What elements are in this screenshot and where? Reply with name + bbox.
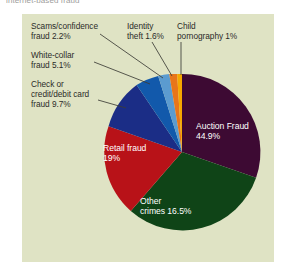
- slice-label-retail-line2: 19%: [103, 153, 146, 163]
- callout-label-identity-theft: Identity theft 1.6%: [127, 21, 164, 41]
- callout-identity-theft-line1: Identity: [127, 21, 164, 31]
- callout-child-pornography-line2: pornography 1%: [177, 31, 237, 41]
- callout-white-collar-line1: White-collar: [31, 50, 74, 60]
- slice-label-other-line2: crimes 16.5%: [140, 206, 191, 216]
- callout-white-collar-line2: fraud 5.1%: [31, 60, 74, 70]
- callout-scams-line1: Scams/confidence: [31, 21, 98, 31]
- slice-label-other-line1: Other: [140, 196, 191, 206]
- slice-label-retail-line1: Retail fraud: [103, 143, 146, 153]
- slice-label-retail-fraud: Retail fraud 19%: [103, 143, 146, 164]
- callout-label-check-credit-debit-card-fraud: Check or credit/debit card fraud 9.7%: [31, 79, 89, 110]
- pie-chart-figure: internet-based fraud: [0, 0, 293, 274]
- callout-check-card-line2: credit/debit card: [31, 89, 89, 99]
- callout-check-card-line3: fraud 9.7%: [31, 99, 89, 109]
- leader-line-white-collar: [94, 62, 150, 84]
- callout-child-pornography-line1: Child: [177, 21, 237, 31]
- callout-label-scams-confidence-fraud: Scams/confidence fraud 2.2%: [31, 21, 98, 41]
- callout-check-card-line1: Check or: [31, 79, 89, 89]
- slice-label-auction-fraud: Auction Fraud 44.9%: [196, 121, 249, 142]
- slice-label-other-crimes: Other crimes 16.5%: [140, 196, 191, 217]
- callout-identity-theft-line2: theft 1.6%: [127, 31, 164, 41]
- slice-label-auction-line2: 44.9%: [196, 131, 249, 141]
- callout-scams-line2: fraud 2.2%: [31, 31, 98, 41]
- callout-label-child-pornography: Child pornography 1%: [177, 21, 237, 41]
- callout-label-white-collar-fraud: White-collar fraud 5.1%: [31, 50, 74, 70]
- slice-label-auction-line1: Auction Fraud: [196, 121, 249, 131]
- leader-line-identity-theft: [152, 42, 172, 76]
